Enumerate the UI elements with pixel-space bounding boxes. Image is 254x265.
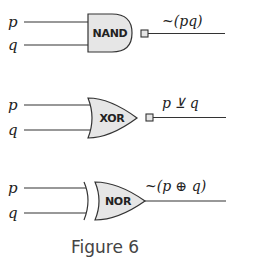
- logic-gates-diagram: p q NAND ~(pq) p q XOR p ⊻ q p q NOR ~(p…: [0, 0, 254, 265]
- nand-gate-label: NAND: [93, 27, 128, 40]
- figure-caption: Figure 6: [71, 237, 139, 257]
- nor-output-expression: ~(p ⊕ q): [145, 178, 206, 194]
- xor-input-q-label: q: [8, 121, 18, 139]
- nand-input-p-label: p: [8, 13, 18, 31]
- nor-gate-label: NOR: [105, 195, 132, 208]
- nor-gate-group: p q NOR ~(p ⊕ q): [8, 178, 226, 222]
- xor-output-expression: p ⊻ q: [162, 95, 199, 111]
- xor-output-square: [146, 114, 153, 121]
- nor-input-q-label: q: [8, 204, 18, 222]
- nand-gate-group: p q NAND ~(pq): [8, 13, 225, 54]
- nand-output-square: [141, 30, 148, 37]
- xor-gate-label: XOR: [99, 112, 125, 125]
- nor-input-p-label: p: [8, 179, 18, 197]
- xor-input-p-label: p: [8, 96, 18, 114]
- xor-gate-group: p q XOR p ⊻ q: [8, 95, 226, 139]
- nand-output-expression: ~(pq): [162, 13, 203, 29]
- nand-input-q-label: q: [8, 36, 18, 54]
